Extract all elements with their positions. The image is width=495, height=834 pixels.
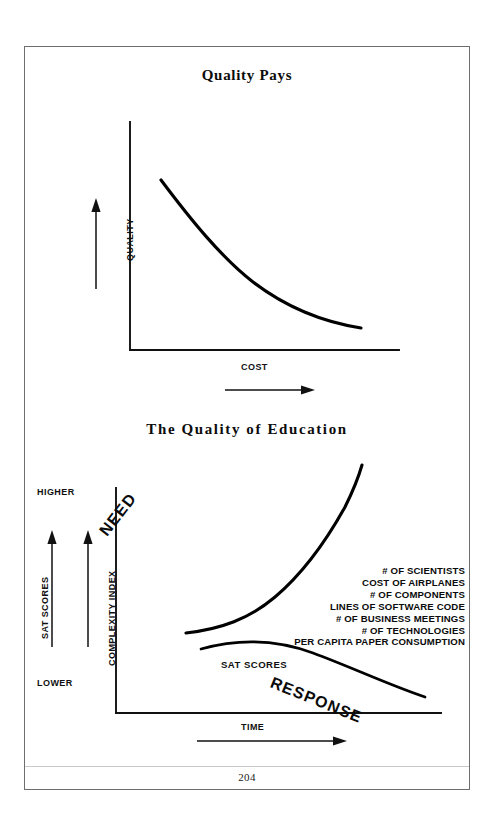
printed-page: Quality Pays QUALITY COST The Quality of…: [24, 46, 470, 790]
figure-2-higher-label: HIGHER: [37, 488, 75, 497]
figure-1-right-arrow: [225, 385, 315, 394]
figure-1-up-arrow: [91, 198, 100, 289]
driver-item: LINES OF SOFTWARE CODE: [294, 601, 465, 613]
figure-1-title: Quality Pays: [25, 67, 469, 84]
figure-1-plot: [25, 97, 471, 407]
figure-1-y-axis-label: QUALITY: [126, 218, 135, 261]
footer-divider: [25, 766, 469, 767]
driver-item: # OF TECHNOLOGIES: [294, 625, 465, 637]
figure-2-complexity-index-arrow: [83, 530, 92, 647]
figure-2-sat-scores-axis-label: SAT SCORES: [41, 577, 50, 639]
page-number: 204: [25, 771, 469, 783]
driver-item: # OF SCIENTISTS: [294, 565, 465, 577]
driver-item: # OF BUSINESS MEETINGS: [294, 613, 465, 625]
driver-item: COST OF AIRPLANES: [294, 577, 465, 589]
driver-item: # OF COMPONENTS: [294, 589, 465, 601]
figure-2-title: The Quality of Education: [25, 421, 469, 438]
figure-2-quality-of-education: HIGHER LOWER SAT SCORES COMPLEXITY INDEX…: [25, 451, 471, 751]
figure-1-quality-curve: [161, 180, 361, 328]
figure-2-time-arrow: [197, 736, 347, 745]
figure-1-x-axis-label: COST: [241, 363, 268, 372]
driver-item: PER CAPITA PAPER CONSUMPTION: [294, 636, 465, 648]
figure-1-quality-pays: QUALITY COST: [25, 97, 471, 407]
figure-2-driver-list: # OF SCIENTISTS COST OF AIRPLANES # OF C…: [294, 565, 465, 648]
figure-2-x-axis-label: TIME: [241, 723, 264, 732]
figure-2-complexity-index-axis-label: COMPLEXITY INDEX: [108, 570, 117, 666]
figure-2-lower-label: LOWER: [37, 679, 73, 688]
figure-2-response-series-label: SAT SCORES: [221, 660, 287, 670]
